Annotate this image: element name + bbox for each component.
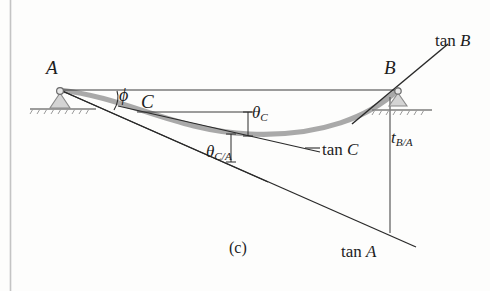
roller-pivot-b	[395, 88, 401, 94]
tan-b-line	[352, 44, 448, 124]
tan-word: tan	[341, 242, 362, 261]
ground-hatch-b	[372, 110, 424, 115]
tan-word: tan	[322, 140, 343, 159]
tan-word: tan	[435, 31, 456, 50]
phi-reference-line	[60, 90, 268, 182]
beam-deflection-figure: A B C ϕ θC θC/A tB/A tan B tan C tan A (…	[0, 0, 490, 291]
ground-hatch-a	[30, 109, 89, 114]
label-point-b: B	[384, 58, 396, 77]
t-ba-subscript: B/A	[396, 136, 413, 148]
theta-c-subscript: C	[260, 111, 267, 123]
label-point-c: C	[141, 92, 154, 111]
theta-ca-subscript: C/A	[214, 150, 231, 162]
label-tan-a: tan A	[341, 243, 376, 260]
label-tan-c: tan C	[322, 141, 358, 158]
label-angle-phi: ϕ	[119, 86, 128, 104]
label-deviation-t-b-over-a: tB/A	[391, 129, 413, 148]
pin-triangle-a	[50, 93, 70, 108]
label-angle-theta-c: θC	[252, 104, 268, 123]
pin-pivot-a	[57, 88, 64, 95]
label-tan-b: tan B	[435, 32, 470, 49]
label-angle-theta-c-over-a: θC/A	[206, 143, 232, 162]
figure-caption: (c)	[229, 240, 247, 256]
tan-c-variable: C	[347, 140, 358, 159]
label-point-a: A	[46, 58, 58, 77]
tan-a-variable: A	[366, 242, 376, 261]
tan-b-variable: B	[460, 31, 470, 50]
